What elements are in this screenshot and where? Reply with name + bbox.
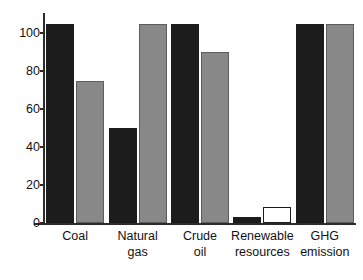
y-tick-label-100: 100	[2, 27, 40, 40]
x-axis-line	[34, 223, 356, 225]
bar-group	[294, 14, 356, 223]
bar	[263, 207, 291, 223]
y-tick-label-20: 20	[2, 179, 40, 192]
bar-group	[231, 14, 293, 223]
plot-area	[44, 14, 356, 223]
x-axis-label-line: GHG	[288, 228, 362, 244]
bar	[233, 217, 261, 223]
x-axis-category-labels: CoalNaturalgasCrudeoilRenewableresources…	[44, 228, 356, 278]
x-axis-label-line: emission	[288, 244, 362, 260]
bar-group	[44, 14, 106, 223]
bar	[139, 24, 167, 224]
bar	[76, 81, 104, 224]
y-tick-label-40: 40	[2, 141, 40, 154]
bar	[296, 24, 324, 224]
bar-group	[169, 14, 231, 223]
bar	[109, 128, 137, 223]
bar	[201, 52, 229, 223]
y-tick-label-80: 80	[2, 65, 40, 78]
bar-chart: 020406080100 CoalNaturalgasCrudeoilRenew…	[0, 0, 363, 280]
bar-group	[106, 14, 168, 223]
x-axis-label-ghg-emission: GHGemission	[288, 228, 362, 260]
y-tick-label-0: 0	[2, 217, 40, 230]
bar	[326, 24, 354, 224]
bar	[171, 24, 199, 224]
y-tick-label-60: 60	[2, 103, 40, 116]
y-axis-tick-labels: 020406080100	[0, 0, 40, 280]
bar	[46, 24, 74, 224]
